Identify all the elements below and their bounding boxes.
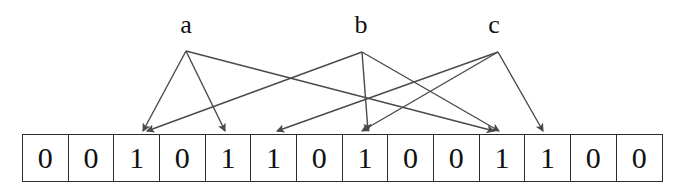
bit-cell-4: 1 bbox=[206, 135, 252, 181]
bit-cell-0: 0 bbox=[23, 135, 69, 181]
arrow-c-to-cell-11 bbox=[498, 52, 543, 131]
bit-cell-2: 1 bbox=[114, 135, 160, 181]
bit-cell-13: 0 bbox=[617, 135, 663, 181]
source-label-a: a bbox=[180, 12, 192, 38]
bit-cell-7: 1 bbox=[343, 135, 389, 181]
bloom-filter-diagram: abc 00101101001100 bbox=[0, 0, 679, 194]
source-label-b: b bbox=[355, 12, 368, 38]
bit-cell-11: 1 bbox=[525, 135, 571, 181]
bit-cell-6: 0 bbox=[297, 135, 343, 181]
bit-cell-5: 1 bbox=[251, 135, 297, 181]
arrow-c-to-cell-5 bbox=[277, 52, 498, 131]
arrow-a-to-cell-10 bbox=[186, 51, 494, 131]
bit-cell-10: 1 bbox=[480, 135, 526, 181]
arrow-b-to-cell-7 bbox=[362, 52, 368, 131]
bit-cell-12: 0 bbox=[571, 135, 617, 181]
arrow-a-to-cell-4 bbox=[186, 51, 225, 131]
arrow-group bbox=[143, 51, 543, 131]
bit-cell-8: 0 bbox=[388, 135, 434, 181]
bit-array: 00101101001100 bbox=[22, 134, 663, 182]
bit-cell-1: 0 bbox=[69, 135, 115, 181]
source-label-c: c bbox=[488, 12, 500, 38]
bit-cell-9: 0 bbox=[434, 135, 480, 181]
bit-cell-3: 0 bbox=[160, 135, 206, 181]
